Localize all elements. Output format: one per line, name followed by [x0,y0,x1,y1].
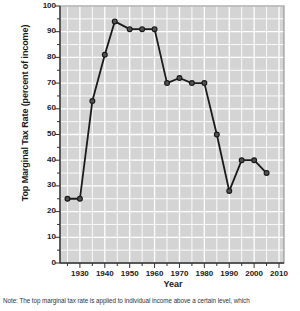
x-axis-label: Year [60,279,286,289]
chart-note: Note: The top marginal tax rate is appli… [3,297,297,305]
x-tick-label: 2010 [259,269,299,278]
x-axis-tick-labels: 193019401950196019701980199020002010 [0,0,300,311]
chart-figure: Top Marginal Tax Rate (percent of income… [0,0,300,311]
